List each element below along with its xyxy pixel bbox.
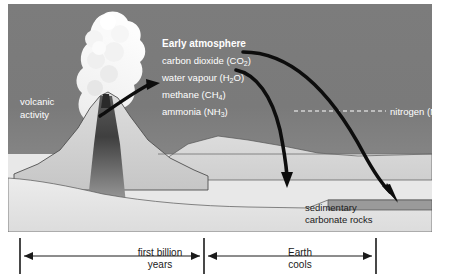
gas-item-ammonia: ammonia (NH3)	[162, 106, 251, 123]
gas-formula: H	[223, 72, 230, 83]
gas-formula-tail: O	[234, 72, 241, 83]
gas-subscript: 2	[230, 77, 234, 84]
scene-panel: volcanic activity Early atmosphere carbo…	[8, 4, 432, 232]
gas-item-water-vapour: water vapour (H2O)	[162, 72, 251, 89]
early-atmosphere-heading: Early atmosphere	[162, 38, 246, 51]
sedimentary-carbonate-rocks-label: sedimentary carbonate rocks	[305, 202, 373, 226]
gas-subscript: 3	[221, 111, 225, 118]
gas-name: methane	[162, 89, 199, 100]
gas-formula: NH	[207, 106, 221, 117]
gas-name: carbon dioxide	[162, 55, 224, 66]
volcanic-activity-label: volcanic activity	[20, 96, 54, 121]
nitrogen-label: nitrogen (N2)	[390, 106, 432, 120]
diagram-root: volcanic activity Early atmosphere carbo…	[0, 0, 449, 280]
gas-item-carbon-dioxide: carbon dioxide (CO2)	[162, 55, 251, 72]
gas-formula: CO	[230, 55, 244, 66]
gas-subscript: 2	[244, 60, 248, 67]
gas-name: water vapour	[162, 72, 217, 83]
nitrogen-text: nitrogen (N	[390, 106, 432, 117]
gas-name: ammonia	[162, 106, 201, 117]
timeline-label-first-billion-years: first billion years	[110, 247, 210, 271]
gas-subscript: 4	[219, 94, 223, 101]
gas-item-methane: methane (CH4)	[162, 89, 251, 106]
timeline-axis	[0, 232, 449, 280]
gas-formula: CH	[205, 89, 219, 100]
timeline-label-earth-cools: Earth cools	[250, 247, 350, 271]
gas-list: carbon dioxide (CO2) water vapour (H2O) …	[162, 55, 251, 123]
